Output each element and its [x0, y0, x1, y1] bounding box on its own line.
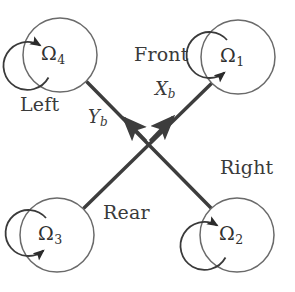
label-right: Right	[220, 158, 273, 177]
arm-group	[84, 82, 213, 208]
label-rear: Rear	[103, 203, 150, 222]
rotor-1-subscript: 1	[236, 54, 244, 69]
label-left: Left	[20, 95, 59, 114]
axis-xb-label: Xb	[155, 80, 176, 98]
rotor-1-label: Ω1	[220, 46, 244, 65]
rotor-2-label: Ω2	[219, 224, 243, 243]
axis-xb-arrow	[150, 117, 173, 141]
axis-xb-symbol: X	[155, 78, 168, 99]
rotor-3-label: Ω3	[38, 224, 62, 243]
label-front: Front	[134, 45, 189, 64]
axis-yb-label: Yb	[88, 108, 108, 126]
quadrotor-diagram: Ω4 Ω1 Ω3 Ω2 Front Left Right Rear Xb Yb	[0, 0, 295, 292]
axis-yb-arrow	[124, 118, 146, 141]
axis-yb-symbol: Y	[88, 106, 100, 127]
axis-xb-subscript: b	[168, 87, 176, 101]
axis-yb-subscript: b	[100, 115, 108, 129]
rotor-3-omega: Ω	[38, 222, 54, 244]
rotor-3-subscript: 3	[54, 232, 62, 247]
rotor-4-subscript: 4	[57, 52, 65, 67]
rotor-2-omega: Ω	[219, 222, 235, 244]
rotor-2-subscript: 2	[235, 232, 243, 247]
rotor-4-label: Ω4	[41, 44, 65, 63]
rotor-4-omega: Ω	[41, 42, 57, 64]
rotor-1-omega: Ω	[220, 44, 236, 66]
